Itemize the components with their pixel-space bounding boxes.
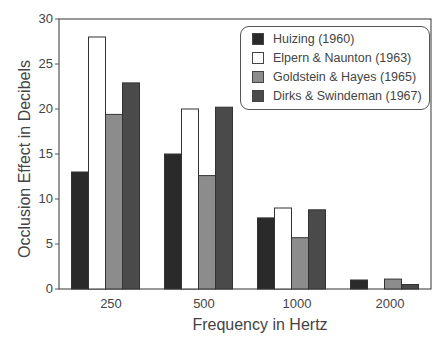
bar [258,218,275,289]
bar [89,37,106,289]
x-tick-label: 2000 [365,296,415,311]
legend: Huizing (1960) Elpern & Naunton (1963) G… [240,26,430,110]
y-axis-label: Occlusion Effect in Decibels [16,54,34,264]
bar [216,107,233,289]
legend-swatch-icon [252,71,264,83]
y-tick-label: 30 [33,11,53,26]
legend-swatch-icon [252,33,264,45]
bar-chart: 30 25 20 15 10 5 0 250 500 1000 2000 Occ… [0,0,444,349]
bar [106,114,123,289]
y-tick-label: 10 [33,191,53,206]
y-tick-label: 0 [33,281,53,296]
bar [402,285,419,290]
bar [199,176,216,289]
legend-item: Goldstein & Hayes (1965) [252,69,416,85]
legend-item: Huizing (1960) [252,31,354,47]
x-tick-label: 1000 [272,296,322,311]
legend-item: Dirks & Swindeman (1967) [252,88,422,104]
x-tick-label: 500 [179,296,229,311]
legend-swatch-icon [252,52,264,64]
bar [351,280,368,289]
bar [309,210,326,289]
y-tick-label: 20 [33,101,53,116]
y-tick-label: 15 [33,146,53,161]
y-tick-label: 25 [33,56,53,71]
bar [275,208,292,289]
bar [165,154,182,289]
x-axis-label: Frequency in Hertz [140,316,380,334]
bar [385,279,402,289]
legend-label: Goldstein & Hayes (1965) [273,70,416,84]
bar [123,83,140,289]
legend-item: Elpern & Naunton (1963) [252,50,411,66]
x-tick-label: 250 [86,296,136,311]
legend-swatch-icon [252,90,264,102]
bar [182,109,199,289]
bar [72,172,89,289]
legend-label: Elpern & Naunton (1963) [273,51,411,65]
bar [292,238,309,289]
legend-label: Huizing (1960) [273,32,354,46]
y-tick-label: 5 [33,236,53,251]
legend-label: Dirks & Swindeman (1967) [273,89,422,103]
